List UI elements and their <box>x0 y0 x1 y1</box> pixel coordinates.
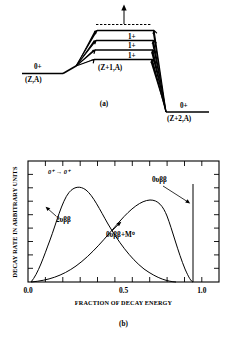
daughter-spin-parity-label: 0+ <box>180 102 188 110</box>
pointer-to-0nubb-spike <box>163 186 190 203</box>
curve-label-2nubb: 2υββ <box>56 216 71 224</box>
pointer-to-2nubb <box>46 207 56 216</box>
x-axis-title: FRACTION OF DECAY ENERGY <box>75 299 173 306</box>
curve-2nubb <box>31 187 176 282</box>
escape-arrow <box>121 5 126 25</box>
panel-a-level-diagram: 0+ (Z,A) <box>0 0 227 152</box>
panel-b-spectrum-chart: 0⁺ → 0⁺ 2υββ 0υββ+M⁰ 0υββ 0.0 0.5 1. <box>0 152 227 357</box>
escape-arrow-head <box>121 5 126 11</box>
intermediate-spin-parity-label-3: 1+ <box>128 52 136 60</box>
parent-spin-parity-label: 0+ <box>34 63 42 71</box>
intermediate-spin-parity-label-2: 1+ <box>128 42 136 50</box>
curve-label-0nubb-majoron: 0υββ+M⁰ <box>106 231 135 239</box>
spectrum-chart-svg: 0⁺ → 0⁺ 2υββ 0υββ+M⁰ 0υββ 0.0 0.5 1. <box>0 152 227 357</box>
parent-nuclide-label: (Z,A) <box>25 76 42 84</box>
level-diagram-svg: 0+ (Z,A) <box>0 0 227 152</box>
y-axis-title: DECAY RATE IN ARBITRARY UNITS <box>11 166 18 277</box>
xtick-label-0: 0.0 <box>23 286 33 295</box>
intermediate-levels-group <box>94 31 154 60</box>
curve-0nubb-majoron <box>31 200 193 282</box>
transition-note-label: 0⁺ → 0⁺ <box>48 168 71 175</box>
decay-arrow-fan <box>151 31 166 113</box>
pointer-to-0nubb-majoron <box>112 222 121 231</box>
panel-a-caption: (a) <box>100 100 109 108</box>
panel-b-caption: (b) <box>119 320 128 328</box>
intermediate-nuclide-label: (Z+1,A) <box>98 64 123 72</box>
daughter-nuclide-label: (Z+2,A) <box>167 115 192 123</box>
double-beta-decay-figure: 0+ (Z,A) <box>0 0 227 357</box>
xtick-label-10: 1.0 <box>197 286 207 295</box>
beta-transition-arrow-fan <box>76 31 97 67</box>
intermediate-spin-parity-label-1: 1+ <box>128 33 136 41</box>
parent-to-intermediate-riser <box>63 66 76 74</box>
xtick-label-5: 0.5 <box>119 286 129 295</box>
curve-label-0nubb: 0υββ <box>152 176 167 184</box>
